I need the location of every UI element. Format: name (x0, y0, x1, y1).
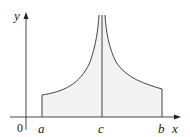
tick-label-b: b (158, 121, 165, 136)
improper-integral-diagram: y x 0 a c b (0, 0, 190, 137)
x-axis-arrow-icon (174, 115, 181, 120)
origin-label: 0 (17, 121, 23, 135)
shaded-region-left (42, 15, 102, 117)
tick-label-c: c (98, 121, 104, 136)
x-axis-label: x (171, 121, 178, 136)
diagram-canvas: y x 0 a c b (0, 0, 190, 137)
y-axis-label: y (12, 8, 20, 23)
shaded-region-right (102, 15, 162, 117)
y-axis-arrow-icon (24, 12, 29, 19)
tick-label-a: a (38, 121, 45, 136)
